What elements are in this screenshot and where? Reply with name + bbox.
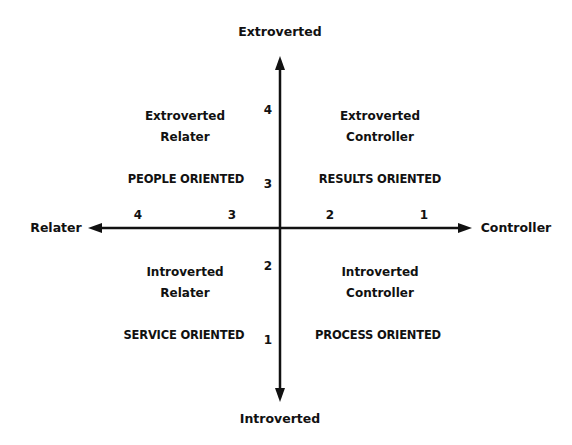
vertical-tick-4: 4	[262, 103, 274, 117]
axis-label-extroverted: Extroverted	[230, 24, 330, 39]
quadrant-title-line1: Introverted	[320, 262, 440, 283]
quadrant-title-extroverted-relater: Extroverted Relater	[130, 106, 240, 148]
quadrant-title-line1: Extroverted	[130, 106, 240, 127]
vertical-tick-1: 1	[262, 333, 274, 347]
quadrant-title-line1: Extroverted	[320, 106, 440, 127]
horizontal-tick-1: 1	[418, 208, 430, 222]
horizontal-tick-2: 2	[324, 208, 336, 222]
arrow-up-icon	[275, 56, 285, 70]
horizontal-tick-4: 4	[132, 208, 144, 222]
quadrant-title-introverted-relater: Introverted Relater	[130, 262, 240, 304]
axis-label-introverted: Introverted	[230, 411, 330, 426]
arrow-down-icon	[275, 388, 285, 402]
orientation-results: RESULTS ORIENTED	[310, 172, 450, 186]
arrow-left-icon	[88, 223, 102, 233]
quadrant-title-line2: Controller	[320, 283, 440, 304]
vertical-tick-3: 3	[262, 177, 274, 191]
quadrant-title-line1: Introverted	[130, 262, 240, 283]
vertical-tick-2: 2	[262, 259, 274, 273]
horizontal-tick-3: 3	[226, 208, 238, 222]
orientation-service: SERVICE ORIENTED	[116, 328, 252, 342]
orientation-people: PEOPLE ORIENTED	[120, 172, 252, 186]
axis-label-controller: Controller	[480, 220, 552, 235]
quadrant-title-extroverted-controller: Extroverted Controller	[320, 106, 440, 148]
axis-label-relater: Relater	[28, 220, 84, 235]
arrow-right-icon	[458, 223, 472, 233]
quadrant-title-line2: Controller	[320, 127, 440, 148]
quadrant-title-line2: Relater	[130, 283, 240, 304]
orientation-process: PROCESS ORIENTED	[306, 328, 450, 342]
quadrant-title-line2: Relater	[130, 127, 240, 148]
quadrant-title-introverted-controller: Introverted Controller	[320, 262, 440, 304]
